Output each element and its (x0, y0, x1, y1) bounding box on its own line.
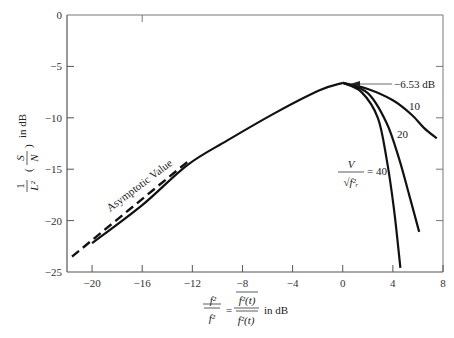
chart: −20−16−12−8−40480−5−10−15−20−25 −6.53 dB… (0, 0, 454, 338)
svg-text:(: ( (22, 168, 35, 172)
x-tick-label: 0 (340, 277, 346, 289)
x-tick-label: 4 (390, 277, 396, 289)
v40-value: = 40 (367, 165, 387, 177)
svg-text:in dB: in dB (264, 304, 288, 316)
x-axis-label: f² f² = f²(t) f²(t) in dB (203, 292, 288, 327)
svg-text:S: S (14, 155, 26, 161)
svg-text:f²: f² (209, 312, 216, 324)
svg-text:N: N (28, 154, 40, 163)
label-v10: 10 (409, 100, 421, 112)
x-tick-label: −16 (134, 277, 152, 289)
y-axis-label: 1 L² ( S N ) in dB (14, 114, 40, 192)
y-tick-label: 0 (57, 9, 63, 21)
x-tick-label: −4 (287, 277, 299, 289)
series-line-4 (72, 162, 187, 257)
svg-text:in dB: in dB (16, 114, 28, 138)
label-v40: V √f²ᵣ = 40 (338, 158, 387, 188)
plot-frame (67, 15, 443, 272)
series-line-0 (92, 83, 343, 243)
peak-label: −6.53 dB (394, 78, 435, 90)
v40-denominator: √f²ᵣ (343, 176, 358, 188)
x-tick-label: −20 (83, 277, 101, 289)
svg-text:f²(t): f²(t) (239, 294, 256, 307)
y-tick-label: −15 (45, 163, 63, 175)
svg-text:): ) (22, 144, 35, 148)
v40-numerator: V (348, 158, 356, 170)
x-tick-label: −12 (184, 277, 201, 289)
y-tick-label: −10 (45, 112, 63, 124)
x-tick-label: 8 (440, 277, 446, 289)
y-tick-label: −20 (45, 215, 63, 227)
svg-text:L²: L² (28, 181, 40, 192)
svg-text:=: = (226, 304, 232, 316)
axis-ticks (67, 15, 443, 272)
svg-text:1: 1 (14, 183, 26, 189)
x-tick-label: −8 (237, 277, 249, 289)
y-tick-label: −25 (45, 266, 63, 278)
svg-text:f²(t): f²(t) (238, 314, 255, 327)
axis-tick-labels: −20−16−12−8−40480−5−10−15−20−25 (45, 9, 446, 289)
label-v20: 20 (397, 128, 409, 140)
y-tick-label: −5 (50, 60, 62, 72)
